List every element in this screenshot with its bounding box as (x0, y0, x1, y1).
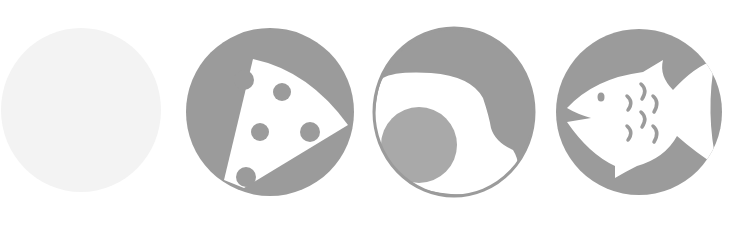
blank-circle-graphic (0, 26, 164, 194)
fish-icon (555, 26, 723, 198)
blank-circle-icon (0, 26, 164, 194)
fried-egg-icon (371, 26, 537, 198)
cheese-icon (184, 26, 356, 198)
fried-egg-graphic (371, 26, 537, 198)
cheese-graphic (184, 26, 356, 198)
fish-graphic (555, 26, 723, 198)
